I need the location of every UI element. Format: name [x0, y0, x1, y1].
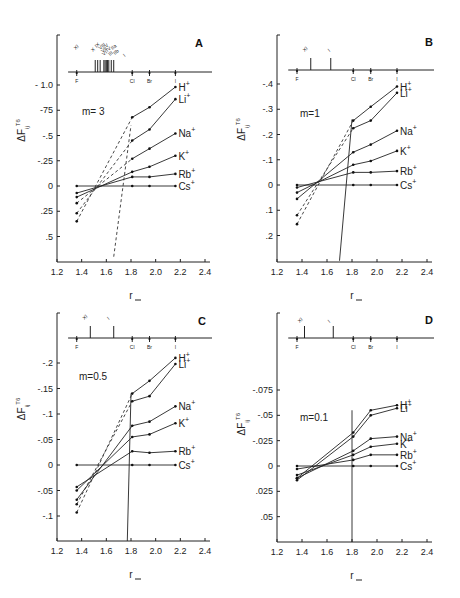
- data-point: [131, 171, 134, 174]
- halide-label: Cl: [351, 76, 356, 82]
- data-point: [75, 196, 78, 199]
- x-tick-label: 2.2: [174, 267, 187, 277]
- data-point: [174, 173, 177, 176]
- y-tick-label: -.2: [262, 130, 273, 140]
- data-point: [174, 132, 177, 135]
- x-tick-label: 1.8: [346, 547, 359, 557]
- y-tick-label: -75: [40, 105, 53, 115]
- ion-label: K+: [400, 144, 411, 157]
- data-point: [396, 454, 399, 457]
- data-point: [352, 454, 355, 457]
- halide-label: Br: [147, 78, 152, 84]
- vertical-transition-line: [114, 125, 131, 256]
- data-point: [131, 424, 134, 427]
- data-point: [148, 128, 151, 131]
- x-tick-label: 1.8: [125, 546, 138, 556]
- ion-label: Li+: [178, 357, 190, 370]
- y-tick-label: 0: [268, 180, 273, 190]
- y-tick-label: -.1: [262, 155, 273, 165]
- y-tick-label: -.15: [37, 384, 53, 394]
- data-point: [75, 511, 78, 514]
- y-tick-label: .5: [45, 232, 53, 242]
- data-point: [369, 184, 372, 187]
- marker-label: XI: [301, 45, 308, 53]
- data-point: [369, 143, 372, 146]
- data-point: [369, 465, 372, 468]
- data-point: [131, 116, 134, 119]
- panel-d: 1.21.41.61.82.02.22.4r-.075-.05-.0250.02…: [230, 300, 460, 598]
- series-line-Li: [132, 364, 175, 401]
- halide-label: Br: [368, 344, 373, 350]
- marker-label: I: [106, 315, 111, 320]
- data-point: [131, 400, 134, 403]
- data-point: [148, 433, 151, 436]
- x-tick-label: 1.4: [296, 547, 309, 557]
- data-point: [296, 186, 299, 189]
- y-tick-label: -.025: [252, 436, 273, 446]
- data-point: [75, 503, 78, 506]
- data-point: [396, 85, 399, 88]
- chart-panel-a: 1.21.41.61.82.02.22.4r- 1.0-75-.5-.250.2…: [0, 0, 230, 300]
- plot-group: 1.21.41.61.82.02.22.4r-.075-.05-.0250.02…: [235, 313, 434, 581]
- y-tick-label: -.2: [42, 358, 53, 368]
- y-axis-label: ΔFijT6: [235, 412, 250, 435]
- data-point: [396, 150, 399, 153]
- ion-label: Li+: [400, 86, 412, 99]
- y-tick-label: .025: [255, 486, 273, 496]
- data-point: [148, 451, 151, 454]
- data-point: [131, 436, 134, 439]
- x-axis-label: r: [350, 570, 354, 581]
- chart-panel-d: 1.21.41.61.82.02.22.4r-.075-.05-.0250.02…: [230, 300, 460, 598]
- marker-label: I: [326, 47, 331, 52]
- data-point: [148, 395, 151, 398]
- y-tick-label: - 1.0: [35, 80, 53, 90]
- data-point: [75, 202, 78, 205]
- data-point: [148, 380, 151, 383]
- data-point: [396, 170, 399, 173]
- marker-label: XI: [72, 43, 79, 51]
- plot-group: 1.21.41.61.82.02.22.4r-.2-.15-.1-.050-.0…: [15, 313, 212, 580]
- y-tick-label: 0: [48, 181, 53, 191]
- chart-panel-c: 1.21.41.61.82.02.22.4r-.2-.15-.1-.050-.0…: [0, 300, 230, 598]
- x-tick-label: 1.8: [346, 267, 359, 277]
- data-point: [148, 106, 151, 109]
- data-point: [296, 474, 299, 477]
- x-tick-label: 2.2: [396, 547, 409, 557]
- x-tick-label: 1.8: [125, 267, 138, 277]
- y-tick-label: -.05: [37, 486, 53, 496]
- data-point: [396, 407, 399, 410]
- m-label: m=0.1: [300, 412, 329, 423]
- data-point: [131, 464, 134, 467]
- halide-label: F: [295, 76, 298, 82]
- halide-label: Br: [368, 76, 373, 82]
- y-tick-label: -.05: [37, 435, 53, 445]
- halide-label: I: [175, 78, 176, 84]
- x-tick-label: 1.6: [100, 267, 113, 277]
- data-point: [174, 154, 177, 157]
- y-tick-label: .25: [40, 206, 53, 216]
- data-point: [369, 454, 372, 457]
- data-point: [396, 184, 399, 187]
- panel-b: 1.21.41.61.82.02.22.4r-.4-.3-.2-.10.1.2Δ…: [230, 0, 460, 300]
- data-point: [369, 414, 372, 417]
- panel-letter: A: [195, 37, 203, 49]
- data-point: [352, 459, 355, 462]
- series-extrapolation: [77, 394, 133, 513]
- panel-c: 1.21.41.61.82.02.22.4r-.2-.15-.1-.050-.0…: [0, 300, 230, 598]
- y-tick-label: -.1: [42, 409, 53, 419]
- data-point: [352, 431, 355, 434]
- x-tick-label: 1.4: [296, 267, 309, 277]
- x-tick-label: 1.2: [271, 267, 284, 277]
- data-point: [352, 450, 355, 453]
- ion-label: Na+: [178, 126, 195, 139]
- data-point: [174, 98, 177, 101]
- data-point: [396, 435, 399, 438]
- data-point: [396, 465, 399, 468]
- ion-label: K+: [178, 416, 189, 429]
- x-tick-label: 1.6: [100, 546, 113, 556]
- y-axis-label: ΔFijT6: [15, 119, 30, 142]
- x-tick-label: 1.2: [51, 546, 64, 556]
- series-line-Li: [353, 93, 397, 128]
- m-label: m=1: [300, 108, 320, 119]
- ion-label: H+: [178, 80, 189, 93]
